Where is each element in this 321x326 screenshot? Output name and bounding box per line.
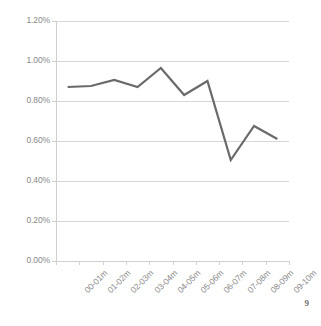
line-chart-figure: 0.00%0.20%0.40%0.60%0.80%1.00%1.20% 00-0… — [0, 0, 321, 326]
page-canvas: 0.00%0.20%0.40%0.60%0.80%1.00%1.20% 00-0… — [0, 0, 321, 326]
series-line — [0, 0, 321, 326]
page-number: 9 — [305, 298, 310, 308]
